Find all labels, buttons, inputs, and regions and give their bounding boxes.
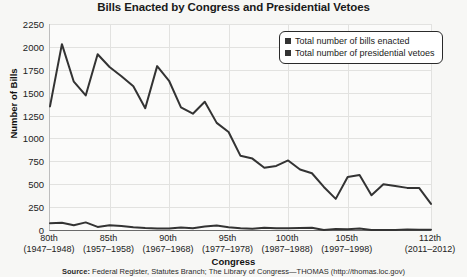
chart-legend: Total number of bills enacted Total numb…: [279, 31, 443, 64]
source-note: Source: Federal Register, Statutes Branc…: [0, 267, 467, 276]
series-line: [50, 44, 431, 204]
series-line: [50, 222, 431, 230]
source-prefix: Source:: [62, 267, 90, 276]
legend-label: Total number of bills enacted: [295, 35, 410, 47]
y-tick-label: 2000: [0, 41, 44, 52]
x-tick-label: 105th(1997–1998): [310, 233, 384, 255]
y-tick-label: 500: [0, 179, 44, 190]
x-tick-label: 112th(2011–2012): [393, 233, 467, 255]
y-tick-label: 1500: [0, 87, 44, 98]
y-tick-label: 1000: [0, 133, 44, 144]
y-tick-label: 750: [0, 156, 44, 167]
legend-label: Total number of presidential vetoes: [295, 47, 435, 59]
y-tick-label: 250: [0, 202, 44, 213]
chart-page: Bills Enacted by Congress and Presidenti…: [0, 0, 467, 277]
source-text: Federal Register, Statutes Branch; The L…: [90, 267, 405, 276]
legend-entry: Total number of bills enacted: [285, 35, 435, 47]
legend-swatch-icon: [285, 38, 291, 44]
x-axis-label: Congress: [0, 256, 467, 267]
y-tick-label: 2250: [0, 19, 44, 30]
legend-entry: Total number of presidential vetoes: [285, 47, 435, 59]
legend-swatch-icon: [285, 50, 291, 56]
chart-title: Bills Enacted by Congress and Presidenti…: [0, 1, 467, 13]
y-tick-label: 1250: [0, 110, 44, 121]
y-tick-label: 1750: [0, 64, 44, 75]
